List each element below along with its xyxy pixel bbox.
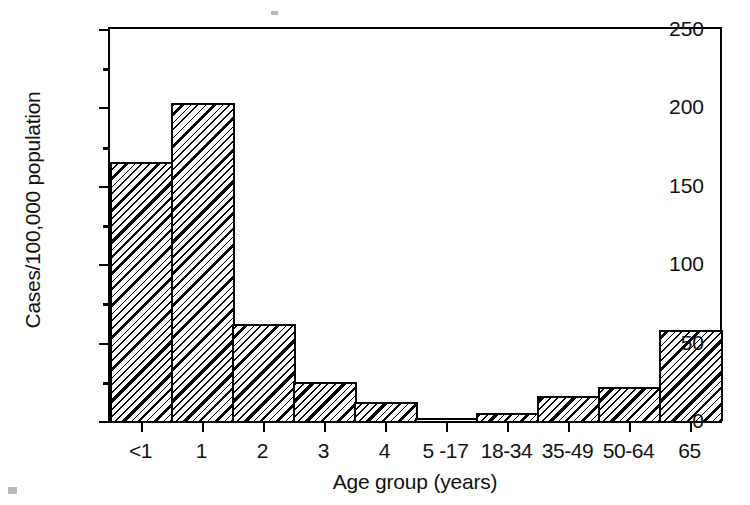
x-tick-label-9: 65 (678, 439, 701, 463)
x-tick-7 (568, 421, 570, 432)
bar-age-4[interactable] (354, 402, 418, 421)
x-tick-3 (324, 421, 326, 432)
bar-age-2[interactable] (232, 324, 296, 421)
x-tick-label-5: 5 -17 (423, 439, 469, 463)
x-tick-1 (202, 421, 204, 432)
x-tick-label-6: 18-34 (481, 439, 533, 463)
bar-age-35-49[interactable] (537, 396, 601, 421)
x-tick-label-3: 3 (318, 439, 329, 463)
y-tick-minor-175 (103, 147, 110, 150)
scan-speck-top (271, 11, 278, 15)
x-tick-label-0: <1 (129, 439, 152, 463)
y-tick-250 (99, 29, 110, 31)
x-tick-9 (690, 421, 692, 432)
plot-area: 050100150200250 <112345 -1718-3435-4950-… (108, 27, 722, 423)
x-tick-label-7: 35-49 (542, 439, 594, 463)
y-tick-200 (99, 107, 110, 109)
x-tick-label-1: 1 (196, 439, 207, 463)
bar-age-1[interactable] (171, 103, 235, 421)
bar-age-5-17[interactable] (415, 418, 479, 421)
x-axis-title: Age group (years) (108, 470, 722, 494)
y-tick-50 (99, 343, 110, 345)
x-tick-label-2: 2 (257, 439, 268, 463)
bar-series (110, 29, 720, 421)
x-tick-label-8: 50-64 (603, 439, 655, 463)
x-tick-0 (141, 421, 143, 432)
bar-age-65-plus[interactable] (659, 330, 723, 421)
y-tick-minor-125 (103, 225, 110, 228)
x-tick-6 (507, 421, 509, 432)
y-tick-150 (99, 186, 110, 188)
bar-chart-figure: Cases/100,000 population 050100150200250… (0, 0, 750, 505)
bar-age-50-64[interactable] (598, 387, 662, 421)
y-tick-100 (99, 264, 110, 266)
y-tick-minor-225 (103, 68, 110, 71)
bar-age-under-1[interactable] (110, 162, 174, 421)
bar-age-18-34[interactable] (476, 413, 540, 421)
x-tick-4 (385, 421, 387, 432)
x-tick-5 (446, 421, 448, 432)
bar-age-3[interactable] (293, 382, 357, 421)
y-axis-title: Cases/100,000 population (21, 45, 45, 375)
scan-speck-bottom-left (8, 487, 17, 494)
x-tick-2 (263, 421, 265, 432)
x-tick-label-4: 4 (379, 439, 390, 463)
y-tick-0 (99, 421, 110, 423)
x-tick-8 (629, 421, 631, 432)
y-tick-minor-25 (103, 382, 110, 385)
y-tick-minor-75 (103, 303, 110, 306)
